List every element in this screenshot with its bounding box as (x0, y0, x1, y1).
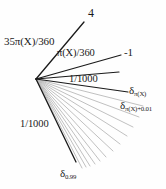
delta-099-subscript: 0.99 (65, 173, 76, 180)
label-delta-pi: δπ(X) (129, 85, 146, 97)
label-mid-angle: π(X)/360 (57, 48, 95, 59)
ray-fan-diagram: 4 35π(X)/360 π(X)/360 -1 1/1000 1/1000 δ… (0, 0, 166, 189)
label-right-value: -1 (124, 47, 133, 58)
label-left-angle: 35π(X)/360 (4, 36, 54, 47)
delta-pi-subscript: π(X) (134, 90, 146, 97)
label-delta-099: δ0.99 (60, 168, 76, 180)
label-delta-pi-offset: δπ(X)+0.01 (120, 100, 152, 112)
label-upper-gap: 1/1000 (69, 74, 98, 85)
delta-pi-offset-subscript: π(X)+0.01 (125, 105, 152, 112)
label-top-value: 4 (88, 7, 94, 19)
label-lower-gap: 1/1000 (20, 119, 49, 130)
